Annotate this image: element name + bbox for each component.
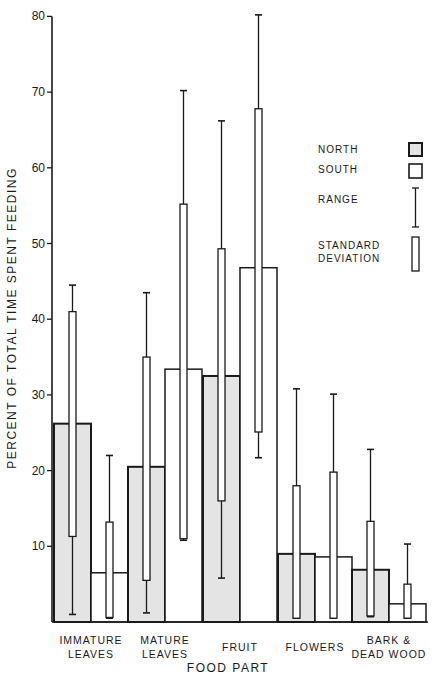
category-label: FRUIT — [222, 641, 258, 653]
sd-box — [69, 312, 76, 537]
legend-label-south: SOUTH — [318, 164, 358, 175]
x-axis-categories: IMMATURELEAVESMATURELEAVESFRUITFLOWERSBA… — [59, 634, 426, 660]
legend-swatch-south — [409, 164, 422, 178]
sd-box — [218, 249, 225, 501]
category-label: LEAVES — [68, 648, 114, 660]
legend-label-sd-line2: DEVIATION — [318, 253, 380, 264]
category-label: BARK & — [367, 634, 412, 646]
sd-box — [143, 357, 150, 580]
y-tick-label: 30 — [32, 388, 46, 402]
sd-box — [367, 521, 374, 616]
legend-swatch-north — [409, 143, 422, 156]
sd-box — [180, 204, 187, 539]
legend-label-sd-line1: STANDARD — [318, 240, 380, 251]
y-tick-label: 50 — [32, 237, 46, 251]
sd-box — [255, 109, 262, 432]
legend-label-north: NORTH — [318, 144, 358, 155]
category-label: LEAVES — [142, 648, 188, 660]
bar-chart: 1020304050607080 IMMATURELEAVESMATURELEA… — [0, 0, 436, 682]
x-axis-title: FOOD PART — [187, 661, 269, 675]
sd-box — [106, 522, 113, 617]
sd-box — [293, 486, 300, 618]
legend-range-icon — [412, 188, 419, 227]
legend: NORTH SOUTH RANGE STANDARD DEVIATION — [318, 143, 422, 271]
category-label: FLOWERS — [286, 641, 345, 653]
legend-sd-icon — [412, 237, 419, 271]
category-label: DEAD WOOD — [352, 648, 427, 660]
category-label: MATURE — [140, 634, 190, 646]
category-label: IMMATURE — [59, 634, 122, 646]
sd-box — [330, 472, 337, 618]
sd-box — [404, 584, 411, 618]
y-axis-title: PERCENT OF TOTAL TIME SPENT FEEDING — [5, 167, 19, 468]
y-tick-label: 10 — [32, 539, 46, 553]
y-tick-label: 80 — [32, 9, 46, 23]
y-tick-label: 60 — [32, 161, 46, 175]
legend-label-range: RANGE — [318, 194, 359, 205]
y-tick-label: 70 — [32, 85, 46, 99]
y-tick-label: 20 — [32, 464, 46, 478]
y-tick-label: 40 — [32, 312, 46, 326]
